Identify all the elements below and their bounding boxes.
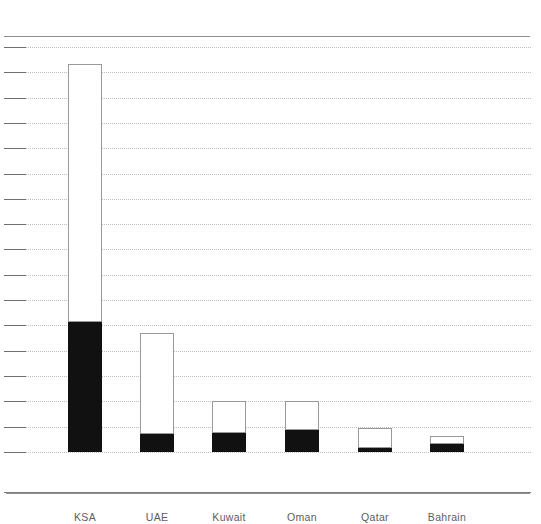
stacked-bar <box>358 428 392 452</box>
y-axis-tick <box>4 123 26 124</box>
y-axis-tick <box>4 325 26 326</box>
y-axis-tick <box>4 249 26 250</box>
y-axis-tick <box>4 174 26 175</box>
bar-segment-black <box>430 444 464 452</box>
bar-segment-white <box>140 333 174 434</box>
bar-segment-black <box>68 322 102 452</box>
y-axis-tick <box>4 376 26 377</box>
stacked-bar <box>68 64 102 452</box>
y-axis-tick <box>4 98 26 99</box>
stacked-bar <box>285 401 319 452</box>
bar-segment-black <box>358 448 392 452</box>
bar-segment-black <box>212 433 246 452</box>
plot-area: KSAUAEKuwaitOmanQatarBahrain <box>0 40 541 455</box>
stacked-bar <box>140 333 174 452</box>
bar-segment-white <box>430 436 464 444</box>
y-axis-tick <box>4 351 26 352</box>
stacked-bar <box>430 436 464 452</box>
category-label-kuwait: Kuwait <box>187 511 271 523</box>
bar-segment-black <box>140 434 174 452</box>
bottom-divider-rule <box>6 493 530 494</box>
y-axis-tick <box>4 199 26 200</box>
category-label-bahrain: Bahrain <box>405 511 489 523</box>
y-axis-tick <box>4 72 26 73</box>
y-axis-tick <box>4 224 26 225</box>
y-axis-tick <box>4 401 26 402</box>
y-axis-tick <box>4 300 26 301</box>
y-axis-tick <box>4 452 26 453</box>
top-divider-rule <box>4 36 530 37</box>
bar-segment-white <box>212 401 246 433</box>
y-axis-tick <box>4 275 26 276</box>
bar-segment-white <box>358 428 392 448</box>
y-axis-tick <box>4 427 26 428</box>
gridline <box>6 47 531 48</box>
category-label-oman: Oman <box>260 511 344 523</box>
y-axis-tick <box>4 148 26 149</box>
bar-segment-white <box>68 64 102 322</box>
chart-page: KSAUAEKuwaitOmanQatarBahrain <box>0 0 541 524</box>
stacked-bar <box>212 401 246 452</box>
bar-segment-white <box>285 401 319 430</box>
y-axis-tick <box>4 47 26 48</box>
bar-segment-black <box>285 430 319 452</box>
